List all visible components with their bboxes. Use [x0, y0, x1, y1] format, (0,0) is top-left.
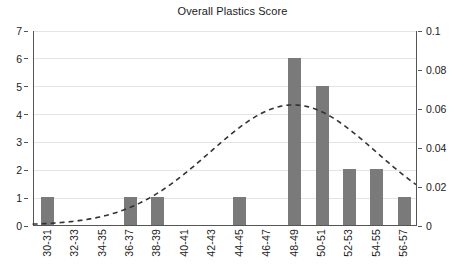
y-axis-left-tick-label: 1 — [16, 192, 22, 204]
y-axis-left-tick-label: 7 — [16, 25, 22, 37]
y-axis-left: 76543210 — [0, 31, 28, 226]
y-axis-right-tick-mark — [418, 187, 422, 188]
y-axis-right-tick-label: 0.06 — [426, 103, 446, 115]
y-axis-left-tick-mark — [24, 86, 28, 87]
y-axis-right-tick-label: 0 — [426, 220, 432, 232]
y-axis-right-tick-mark — [418, 70, 422, 71]
y-axis-left-tick-mark — [24, 142, 28, 143]
y-axis-right-tick-label: 0.1 — [426, 25, 441, 37]
y-axis-right-tick-label: 0.04 — [426, 142, 446, 154]
y-axis-left-tick-mark — [24, 31, 28, 32]
plot-area — [33, 31, 417, 226]
x-axis-tick-label: 44-45 — [233, 229, 245, 257]
y-axis-left-tick-mark — [24, 114, 28, 115]
x-axis-tick-label: 52-53 — [342, 229, 354, 257]
x-axis-tick-label: 30-31 — [41, 229, 53, 257]
y-axis-left-tick-mark — [24, 198, 28, 199]
y-axis-right-tick-mark — [418, 109, 422, 110]
y-axis-left-tick-label: 2 — [16, 164, 22, 176]
y-axis-right-tick-label: 0.02 — [426, 181, 446, 193]
y-axis-left-tick-mark — [24, 170, 28, 171]
y-axis-right-tick-mark — [418, 226, 422, 227]
x-axis-tick-label: 48-49 — [288, 229, 300, 257]
y-axis-left-tick-mark — [24, 226, 28, 227]
x-axis-tick-label: 32-33 — [68, 229, 80, 257]
x-axis-tick-label: 38-39 — [150, 229, 162, 257]
chart-title: Overall Plastics Score — [0, 5, 465, 17]
x-axis: 30-3132-3334-3536-3738-3940-4142-4344-45… — [33, 227, 417, 274]
y-axis-left-tick-mark — [24, 58, 28, 59]
y-axis-right: 0.10.080.060.040.020 — [418, 31, 465, 226]
x-axis-tick-label: 56-57 — [397, 229, 409, 257]
x-axis-tick-label: 42-43 — [205, 229, 217, 257]
x-axis-tick-label: 40-41 — [178, 229, 190, 257]
x-axis-tick-label: 46-47 — [260, 229, 272, 257]
x-axis-tick-label: 34-35 — [96, 229, 108, 257]
y-axis-right-tick-mark — [418, 31, 422, 32]
normal-curve-line — [34, 31, 416, 225]
x-axis-tick-label: 54-55 — [370, 229, 382, 257]
x-axis-tick-label: 50-51 — [315, 229, 327, 257]
y-axis-left-tick-label: 0 — [16, 220, 22, 232]
x-axis-tick-label: 36-37 — [123, 229, 135, 257]
y-axis-left-tick-label: 6 — [16, 53, 22, 65]
normal-curve-path — [33, 105, 416, 224]
y-axis-left-tick-label: 4 — [16, 109, 22, 121]
y-axis-right-tick-mark — [418, 148, 422, 149]
y-axis-left-tick-label: 5 — [16, 81, 22, 93]
y-axis-left-tick-label: 3 — [16, 136, 22, 148]
y-axis-right-tick-label: 0.08 — [426, 64, 446, 76]
chart-container: Overall Plastics Score 76543210 0.10.080… — [0, 0, 465, 274]
